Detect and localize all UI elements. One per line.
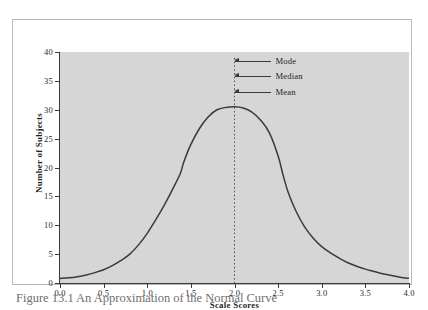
y-axis-tick xyxy=(55,168,59,169)
y-axis-tick-label-wrap: 35 xyxy=(25,81,53,82)
y-axis-tick xyxy=(55,254,59,255)
annotation-leader-line xyxy=(235,61,271,62)
annotation-label: Mean xyxy=(276,88,296,97)
y-axis-tick xyxy=(55,110,59,111)
y-axis-tick-label: 0 xyxy=(31,279,53,288)
annotation-mode: Mode xyxy=(235,56,297,66)
y-axis-tick xyxy=(55,52,59,53)
figure-caption: Figure 13.1 An Approximation of the Norm… xyxy=(16,291,416,305)
figure-frame: ModeMedianMean 0510152025303540 0.00.51.… xyxy=(12,19,412,285)
annotation-leader-line xyxy=(235,92,271,93)
arrow-left-icon xyxy=(234,58,239,62)
y-axis-tick-label-wrap: 10 xyxy=(25,225,53,226)
y-axis-line xyxy=(59,52,60,284)
y-axis-tick-label-wrap: 5 xyxy=(25,254,53,255)
annotation-label: Median xyxy=(276,72,303,81)
y-axis-tick xyxy=(55,225,59,226)
annotation-median: Median xyxy=(235,71,303,81)
y-axis-tick xyxy=(55,81,59,82)
y-axis-tick xyxy=(55,139,59,140)
y-axis-title: Number of Subjects xyxy=(34,83,44,223)
y-axis-tick-label-wrap: 0 xyxy=(25,283,53,284)
y-axis-tick-label: 5 xyxy=(31,250,53,259)
arrow-left-icon xyxy=(234,89,239,93)
annotation-leader-line xyxy=(235,76,271,77)
y-axis-tick-label-wrap: 40 xyxy=(25,52,53,53)
annotation-label: Mode xyxy=(276,57,297,66)
y-axis-tick xyxy=(55,283,59,284)
y-axis-tick xyxy=(55,196,59,197)
arrow-left-icon xyxy=(234,73,239,77)
y-axis-tick-label: 40 xyxy=(31,48,53,57)
plot-area: ModeMedianMean xyxy=(60,52,409,283)
annotation-mean: Mean xyxy=(235,87,296,97)
